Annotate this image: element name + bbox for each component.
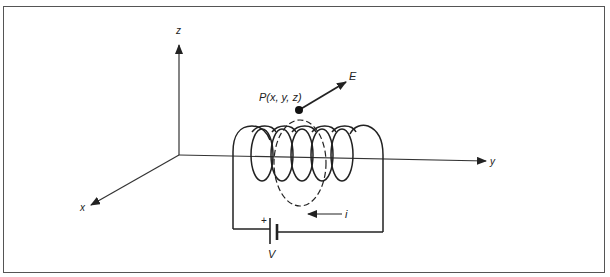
battery-polarity-label: + — [261, 216, 267, 226]
z-axis-label: z — [176, 26, 181, 36]
e-field-vector — [299, 82, 346, 110]
solenoid-coil — [233, 125, 383, 232]
y-axis-label: y — [490, 157, 495, 167]
point-label: P(x, y, z) — [259, 92, 302, 103]
vector-label: E — [349, 71, 356, 82]
battery-icon — [270, 218, 277, 244]
point-p — [295, 106, 303, 114]
circuit-wire — [233, 229, 383, 232]
solenoid-diagram — [0, 0, 610, 277]
dashed-loop — [274, 120, 326, 206]
battery-label: V — [268, 249, 275, 260]
x-axis — [91, 155, 179, 205]
current-label: i — [345, 209, 347, 220]
x-axis-label: x — [80, 203, 85, 213]
